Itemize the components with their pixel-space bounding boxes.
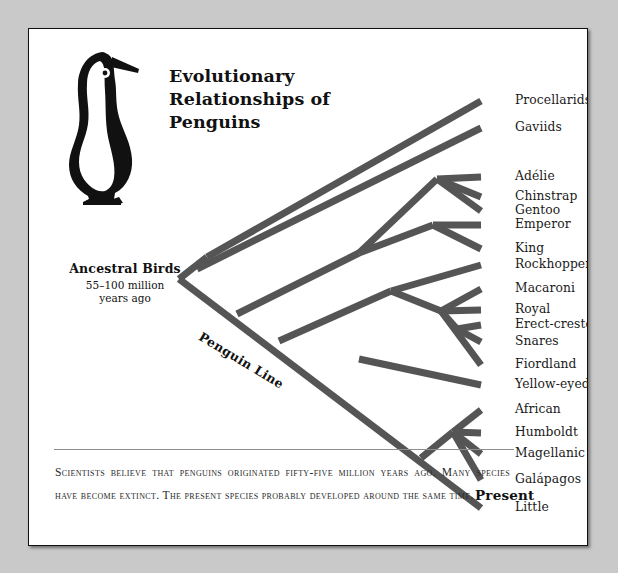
tip-label-emperor: Emperor bbox=[515, 217, 571, 231]
tip-label-erect-crested: Erect-crested bbox=[515, 317, 588, 331]
root-age-line-1: 55–100 million bbox=[45, 279, 205, 292]
branch-yellow-eyed bbox=[359, 359, 481, 385]
figure-title-line-1: Evolutionary bbox=[169, 65, 369, 88]
tip-label-royal: Royal bbox=[515, 302, 550, 316]
figure-title-line-3: Penguins bbox=[169, 111, 369, 134]
figure-frame: Evolutionary Relationships of Penguins A… bbox=[28, 28, 588, 546]
tip-label-magellanic: Magellanic bbox=[515, 446, 585, 460]
tip-label-adelie: Adélie bbox=[515, 169, 555, 183]
branch-eudyptes-core-stem bbox=[391, 291, 441, 311]
branch-rockhopper bbox=[391, 265, 481, 291]
penguin-illustration bbox=[59, 47, 145, 207]
tip-label-yellow-eyed: Yellow-eyed bbox=[515, 377, 588, 391]
tip-label-galapagos: Galápagos bbox=[515, 472, 581, 486]
branch-spheniscus-stem bbox=[421, 432, 453, 458]
tip-label-snares: Snares bbox=[515, 334, 559, 348]
tip-label-macaroni: Macaroni bbox=[515, 281, 575, 295]
tip-label-chinstrap: Chinstrap bbox=[515, 189, 577, 203]
branch-royal bbox=[441, 310, 481, 311]
root-age-label: 55–100 million years ago bbox=[45, 279, 205, 306]
figure-caption: Scientists believe that penguins origina… bbox=[55, 461, 510, 508]
root-label-group: Ancestral Birds 55–100 million years ago bbox=[45, 261, 205, 306]
root-label: Ancestral Birds bbox=[45, 261, 205, 276]
figure-title-line-2: Relationships of bbox=[169, 88, 369, 111]
branch-eudyptes-megadyptes-stem bbox=[279, 291, 391, 341]
tip-label-rockhopper: Rockhopper bbox=[515, 257, 588, 271]
branch-penguin-crown-stem bbox=[237, 253, 359, 314]
tip-label-african: African bbox=[515, 402, 561, 416]
tip-label-gentoo: Gentoo bbox=[515, 203, 560, 217]
tip-label-gaviids: Gaviids bbox=[515, 120, 562, 134]
tip-label-procellarids: Procellarids bbox=[515, 93, 588, 107]
tip-label-fiordland: Fiordland bbox=[515, 357, 577, 371]
tip-label-king: King bbox=[515, 241, 544, 255]
caption-divider bbox=[54, 449, 514, 450]
branch-king bbox=[433, 225, 481, 249]
branch-gaviids bbox=[197, 128, 481, 269]
figure-title: Evolutionary Relationships of Penguins bbox=[169, 65, 369, 133]
tip-label-humboldt: Humboldt bbox=[515, 425, 578, 439]
root-age-line-2: years ago bbox=[45, 292, 205, 305]
